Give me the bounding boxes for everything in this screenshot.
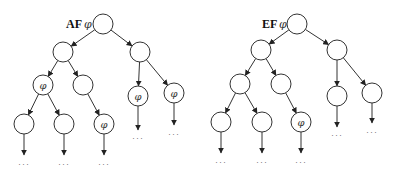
transition-arrow bbox=[305, 29, 328, 44]
af-tree: AF φ ··············· φφφφ bbox=[14, 14, 184, 169]
transition-arrow bbox=[88, 94, 100, 115]
phi-label: φ bbox=[134, 91, 141, 102]
transition-arrow bbox=[245, 93, 257, 114]
phi-label: φ bbox=[297, 117, 304, 128]
transition-arrow bbox=[111, 30, 132, 46]
ellipsis-marker: ··· bbox=[295, 157, 307, 167]
state-node bbox=[327, 40, 347, 60]
af-edges: ··············· bbox=[18, 30, 180, 169]
ellipsis-marker: ··· bbox=[132, 133, 144, 143]
ellipsis-marker: ··· bbox=[256, 157, 268, 167]
ef-edges: ··············· bbox=[215, 29, 378, 167]
ellipsis-marker: ··· bbox=[18, 159, 30, 169]
ellipsis-marker: ··· bbox=[168, 129, 180, 139]
transition-arrow bbox=[68, 61, 78, 77]
state-node bbox=[211, 112, 231, 132]
phi-label: φ bbox=[39, 80, 46, 91]
state-node bbox=[73, 75, 93, 95]
state-node bbox=[271, 74, 291, 94]
state-node bbox=[14, 114, 34, 134]
transition-arrow bbox=[269, 30, 289, 44]
transition-arrow bbox=[28, 94, 38, 115]
state-node bbox=[53, 42, 73, 62]
state-node bbox=[287, 14, 307, 34]
transition-arrow bbox=[138, 62, 139, 86]
ef-formula-label: φ bbox=[279, 18, 287, 31]
transition-arrow bbox=[48, 94, 60, 115]
transition-arrow bbox=[146, 60, 167, 86]
ef-operator-label: EF bbox=[262, 17, 277, 31]
af-operator-label: AF bbox=[66, 17, 82, 31]
ef-tree: EF φ ··············· φ bbox=[211, 14, 382, 167]
phi-label: φ bbox=[170, 88, 177, 99]
state-node bbox=[362, 83, 382, 103]
state-node bbox=[251, 40, 271, 60]
state-node bbox=[327, 86, 347, 106]
transition-arrow bbox=[286, 93, 297, 113]
state-node bbox=[230, 74, 250, 94]
transition-arrow bbox=[48, 61, 58, 77]
ctl-diagram: AF φ ··············· φφφφ EF φ ·········… bbox=[0, 0, 393, 175]
transition-arrow bbox=[245, 59, 255, 76]
transition-arrow bbox=[343, 58, 365, 85]
af-formula-label: φ bbox=[84, 18, 92, 31]
ellipsis-marker: ··· bbox=[58, 159, 70, 169]
phi-label: φ bbox=[100, 119, 107, 130]
state-node bbox=[54, 114, 74, 134]
state-node bbox=[130, 42, 150, 62]
transition-arrow bbox=[225, 93, 235, 113]
ellipsis-marker: ··· bbox=[366, 127, 378, 137]
state-node bbox=[252, 112, 272, 132]
ellipsis-marker: ··· bbox=[98, 159, 110, 169]
transition-arrow bbox=[266, 59, 276, 76]
ellipsis-marker: ··· bbox=[331, 130, 343, 140]
state-node bbox=[93, 14, 113, 34]
transition-arrow bbox=[71, 30, 95, 47]
ellipsis-marker: ··· bbox=[215, 157, 227, 167]
